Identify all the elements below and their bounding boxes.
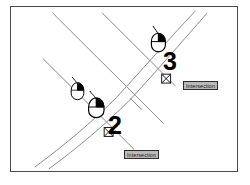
diagram-stage: 2 3 Intersection Intersection: [0, 0, 250, 185]
mouse-left-click-icon: [85, 89, 109, 123]
mouse-left-button-pressed: [158, 33, 165, 41]
road-curve-group: [35, 11, 207, 169]
mouse-left-click-glyph: [85, 89, 109, 119]
step-number-2: 2: [108, 113, 121, 138]
road-edge-outer[interactable]: [35, 11, 196, 167]
diagram-frame: 2 3 Intersection Intersection: [10, 6, 238, 172]
intersection-snap-tooltip-lower: Intersection: [124, 150, 159, 159]
intersection-snap-marker-upper[interactable]: [162, 74, 171, 83]
step-number-3: 3: [163, 49, 176, 74]
mouse-left-button-pressed: [96, 98, 104, 107]
intersection-snap-tooltip-upper: Intersection: [183, 81, 218, 90]
mouse-left-button-pressed: [78, 83, 84, 90]
